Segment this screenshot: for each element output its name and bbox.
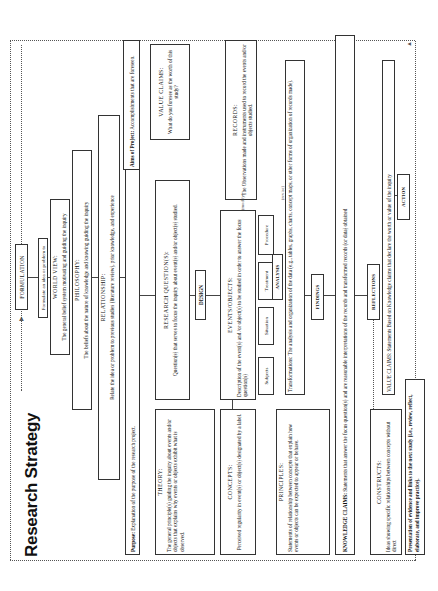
connector	[28, 277, 38, 278]
design-element-subjects: Subjects	[258, 357, 274, 395]
events-objects-box: EVENTS/OBJECTS: Description of the event…	[220, 210, 256, 400]
records-box: RECORDS: The Observations made and instr…	[225, 40, 257, 200]
arrow-icon: ▶	[18, 316, 24, 321]
design-box: DESIGN	[195, 270, 206, 320]
page-title: Research Strategy	[22, 413, 42, 557]
purpose-label: Purpose:	[130, 532, 136, 552]
value-claims-bottom-box: VALUE CLAIMS: Statements Based on Knowle…	[382, 60, 395, 395]
philosophy-box: PHILOSOPHY: The beliefs about the nature…	[72, 150, 92, 410]
spine-connector	[140, 295, 155, 296]
design-element-procedure: Procedure	[258, 215, 274, 255]
research-questions-box: RESEARCH QUESTION(S): Question(s) that s…	[155, 180, 190, 400]
theory-box: THEORY: The general principle(s) guiding…	[155, 409, 215, 555]
connector	[232, 400, 233, 409]
formulate-idea-box: Formulate an idea or problem to study	[38, 238, 48, 318]
analysis-box: ANALYSIS	[272, 254, 283, 300]
formulation-label: FORMULATION	[19, 247, 26, 307]
value-claims-box: VALUE CLAIMS: What do you foresee as the…	[150, 44, 190, 140]
arrow-icon: ▲	[406, 41, 412, 47]
knowledge-claims-row: KNOWLEDGE CLAIMS: Statements that answer…	[335, 35, 355, 555]
constructs-box: CONSTRUCTS: Ideas showing specific relat…	[370, 409, 402, 555]
reflections-box: REFLECTIONS	[367, 264, 380, 320]
aims-label: Aims of Project:	[129, 131, 135, 167]
relationship-box: RELATIONSHIP: Relate the idea or problem…	[98, 115, 120, 480]
dotted-border-top	[10, 41, 11, 561]
concepts-box: CONCEPTS: Perceived regularity in event(…	[220, 409, 256, 555]
design-element-situation: Situation	[258, 307, 274, 345]
formulation-dotted-line-right	[21, 45, 22, 245]
findings-box: FINDINGS	[311, 274, 324, 320]
reflections-dotted-line	[373, 320, 374, 410]
action-box: ACTION	[397, 174, 410, 220]
modify-label: (modify)	[240, 194, 246, 210]
transformations-box: Transformations: The analysis and organi…	[285, 60, 305, 395]
dotted-border-left	[10, 560, 415, 561]
formulation-box: FORMULATION	[15, 244, 28, 310]
principles-box: PRINCIPLES: Statements of relationship b…	[276, 409, 330, 555]
presentation-box: Presentation of evidence and links to th…	[405, 379, 425, 555]
world-view-box: WORLD VIEW: The general belief system mo…	[50, 199, 70, 355]
purpose-text: Explanation of the purpose of the resear…	[130, 426, 136, 531]
aims-text: Accomplishments that are foreseen.	[129, 55, 135, 129]
research-strategy-diagram: Research Strategy FORMULATION Formulate …	[0, 0, 438, 591]
formulation-dotted-line	[21, 311, 22, 391]
aims-box: Aims of Project: Accomplishments that ar…	[123, 40, 140, 170]
